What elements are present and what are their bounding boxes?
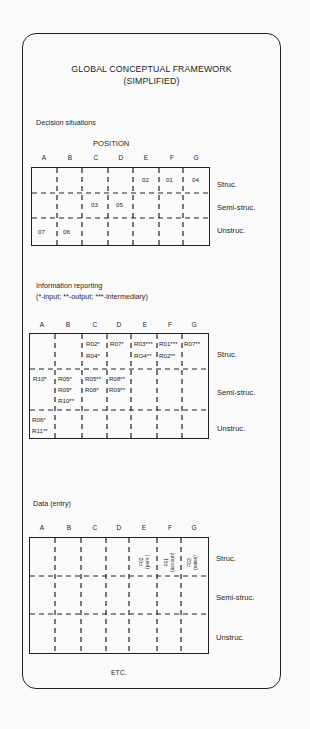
data-entry-sub: (accoun) (170, 553, 176, 572)
etc-label: ETC. (111, 669, 126, 676)
row-label-struc: Struc. (216, 554, 236, 563)
data-entry-cell: F03 (sales) (187, 555, 198, 570)
data-entry-sub: (pers.) (145, 555, 151, 569)
data-entry-grid-lines (0, 0, 310, 729)
row-label-unstruc: Unstruc. (216, 633, 244, 642)
data-entry-cell: F02 (pers.) (139, 555, 150, 569)
data-entry-sub: (sales) (193, 555, 199, 570)
row-label-semi-struc: Semi-struc. (216, 593, 254, 602)
data-entry-cell: F01 (accoun) (164, 553, 175, 572)
